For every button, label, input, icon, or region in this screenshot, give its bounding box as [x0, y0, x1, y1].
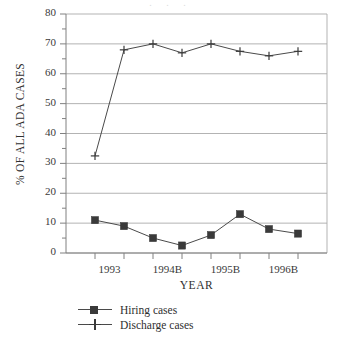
chart-legend: Hiring cases Discharge cases [78, 302, 194, 332]
plus-marker-icon [78, 319, 112, 331]
y-tick-label: 50 [30, 96, 56, 108]
y-tick-label: 80 [30, 6, 56, 18]
square-marker-icon [78, 304, 112, 316]
legend-label-discharge: Discharge cases [120, 319, 194, 331]
y-tick-label: 30 [30, 155, 56, 167]
y-tick-label: 60 [30, 66, 56, 78]
legend-label-hiring: Hiring cases [120, 304, 177, 316]
x-tick-label: 1994B [144, 263, 192, 275]
y-tick-label: 0 [30, 245, 56, 257]
y-tick-label: 70 [30, 36, 56, 48]
x-tick-label: 1995B [202, 263, 250, 275]
y-tick-label: 20 [30, 185, 56, 197]
chart-figure: . . . % OF ALL ADA CASES YEAR 0102030405… [0, 0, 341, 340]
plot-area [0, 0, 341, 340]
x-tick-label: 1993 [86, 263, 134, 275]
legend-item-hiring: Hiring cases [78, 302, 194, 317]
x-tick-label: 1996B [260, 263, 308, 275]
y-tick-label: 10 [30, 215, 56, 227]
y-tick-label: 40 [30, 126, 56, 138]
legend-item-discharge: Discharge cases [78, 317, 194, 332]
